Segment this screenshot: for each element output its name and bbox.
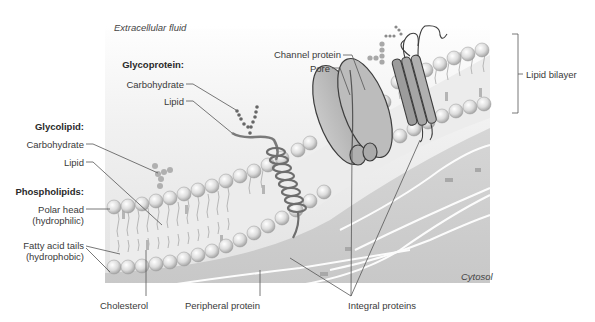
glycolipid-heading: Glycolipid:	[0, 121, 84, 132]
extracellular-fluid-label: Extracellular fluid	[114, 22, 186, 33]
glycoprotein-heading: Glycoprotein:	[100, 59, 184, 70]
lipid-bilayer-label: Lipid bilayer	[526, 69, 577, 80]
glycoprotein-carbohydrate-label: Carbohydrate	[100, 79, 184, 90]
glycolipid-carbohydrate-label: Carbohydrate	[0, 139, 84, 150]
peripheral-protein-dot	[445, 178, 453, 182]
integral-proteins-label: Integral proteins	[348, 300, 416, 311]
glycolipid-lipid-label: Lipid	[0, 157, 84, 168]
cholesterol-label: Cholesterol	[100, 300, 148, 311]
channel-protein-label: Channel protein	[230, 49, 341, 60]
peripheral-protein-label: Peripheral protein	[185, 300, 260, 311]
polar-head-label: Polar head	[0, 204, 84, 215]
glycoprotein-lipid-label: Lipid	[100, 96, 184, 107]
fatty-acid-tails-label: Fatty acid tails	[0, 240, 84, 251]
cytosol-label: Cytosol	[461, 271, 493, 282]
hydrophobic-label: (hydrophobic)	[0, 251, 84, 262]
pore-label: Pore	[280, 63, 330, 74]
membrane-diagram: Extracellular fluid Cytosol Glycoprotein…	[0, 0, 595, 322]
phospholipids-heading: Phospholipids:	[0, 186, 84, 197]
hydrophilic-label: (hydrophilic)	[0, 215, 84, 226]
